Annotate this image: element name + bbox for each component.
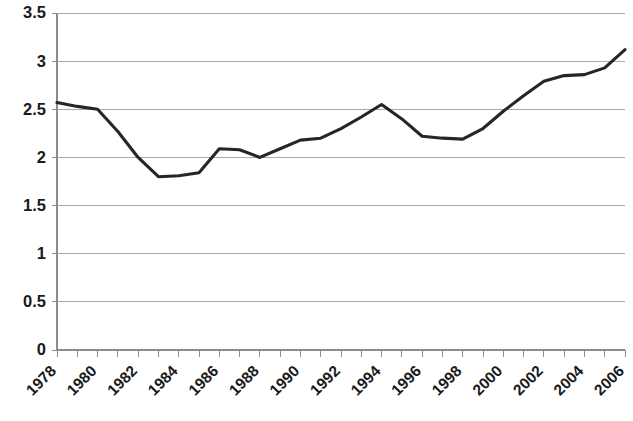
x-tick-label: 1980 xyxy=(63,362,99,398)
y-axis-tick-labels: 00.511.522.533.5 xyxy=(23,3,46,358)
x-tick-label: 2006 xyxy=(591,362,628,399)
x-tick-label: 1994 xyxy=(347,362,384,399)
y-tick-label: 3.5 xyxy=(23,3,46,21)
x-tick-label: 1982 xyxy=(104,362,140,398)
y-tick-label: 3 xyxy=(37,52,46,70)
x-tick-label: 1998 xyxy=(428,362,465,399)
x-tick-label: 1990 xyxy=(266,362,302,398)
y-axis xyxy=(52,13,57,350)
x-tick-label: 2000 xyxy=(469,362,505,398)
line-chart: 00.511.522.533.5 19781980198219841986198… xyxy=(0,0,633,421)
x-axis-tick-labels: 1978198019821984198619881990199219941996… xyxy=(23,362,628,399)
chart-canvas: 00.511.522.533.5 19781980198219841986198… xyxy=(0,0,633,421)
y-tick-label: 2 xyxy=(37,148,46,166)
x-tick-label: 1996 xyxy=(388,362,425,399)
x-tick-label: 2004 xyxy=(550,362,587,399)
y-tick-label: 0.5 xyxy=(23,292,46,310)
x-axis xyxy=(57,350,625,357)
x-tick-label: 1984 xyxy=(144,362,181,399)
y-tick-label: 1.5 xyxy=(23,196,46,214)
gridlines xyxy=(57,13,625,350)
x-tick-label: 1986 xyxy=(185,362,222,399)
x-tick-label: 2002 xyxy=(510,362,546,398)
y-tick-label: 1 xyxy=(37,244,46,262)
x-tick-label: 1988 xyxy=(226,362,263,399)
x-tick-label: 1992 xyxy=(307,362,343,398)
y-tick-label: 2.5 xyxy=(23,100,46,118)
y-tick-label: 0 xyxy=(37,340,46,358)
x-tick-label: 1978 xyxy=(23,362,60,399)
